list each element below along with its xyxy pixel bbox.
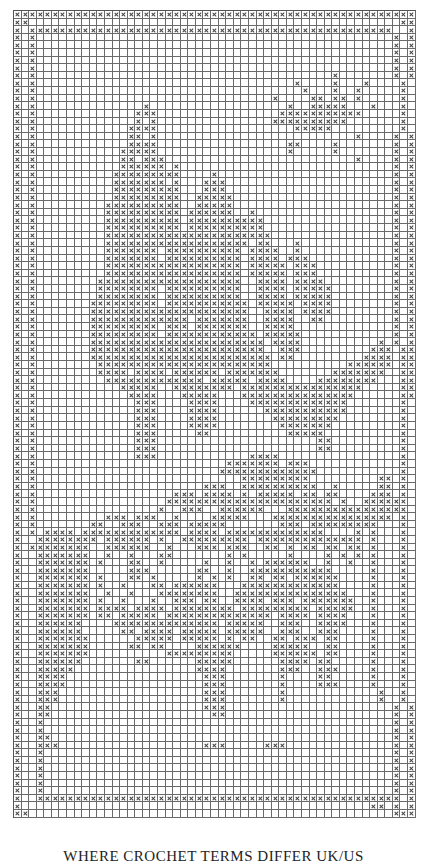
open-mesh-cell bbox=[67, 79, 75, 87]
open-mesh-cell bbox=[166, 696, 174, 704]
open-mesh-cell bbox=[340, 742, 348, 750]
filled-stitch-cell bbox=[234, 270, 242, 278]
filled-stitch-cell bbox=[287, 528, 295, 536]
open-mesh-cell bbox=[272, 521, 280, 529]
open-mesh-cell bbox=[44, 331, 52, 339]
open-mesh-cell bbox=[249, 125, 257, 133]
open-mesh-cell bbox=[37, 308, 45, 316]
open-mesh-cell bbox=[82, 437, 90, 445]
filled-stitch-cell bbox=[173, 353, 181, 361]
open-mesh-cell bbox=[97, 620, 105, 628]
filled-stitch-cell bbox=[44, 612, 52, 620]
open-mesh-cell bbox=[44, 57, 52, 65]
open-mesh-cell bbox=[44, 399, 52, 407]
open-mesh-cell bbox=[113, 719, 121, 727]
open-mesh-cell bbox=[158, 665, 166, 673]
open-mesh-cell bbox=[241, 285, 249, 293]
open-mesh-cell bbox=[59, 772, 67, 780]
filled-stitch-cell bbox=[135, 376, 143, 384]
filled-stitch-cell bbox=[135, 658, 143, 666]
open-mesh-cell bbox=[181, 148, 189, 156]
filled-stitch-cell bbox=[135, 605, 143, 613]
open-mesh-cell bbox=[325, 247, 333, 255]
filled-stitch-cell bbox=[150, 118, 158, 126]
filled-stitch-cell bbox=[105, 795, 113, 803]
filled-stitch-cell bbox=[355, 133, 363, 141]
open-mesh-cell bbox=[294, 323, 302, 331]
open-mesh-cell bbox=[287, 780, 295, 788]
open-mesh-cell bbox=[234, 703, 242, 711]
open-mesh-cell bbox=[249, 430, 257, 438]
filled-stitch-cell bbox=[181, 498, 189, 506]
open-mesh-cell bbox=[219, 620, 227, 628]
open-mesh-cell bbox=[310, 178, 318, 186]
open-mesh-cell bbox=[158, 696, 166, 704]
filled-stitch-cell bbox=[105, 361, 113, 369]
filled-stitch-cell bbox=[219, 270, 227, 278]
filled-stitch-cell bbox=[143, 407, 151, 415]
open-mesh-cell bbox=[219, 726, 227, 734]
open-mesh-cell bbox=[90, 79, 98, 87]
filled-stitch-cell bbox=[128, 643, 136, 651]
open-mesh-cell bbox=[363, 658, 371, 666]
open-mesh-cell bbox=[325, 186, 333, 194]
open-mesh-cell bbox=[181, 186, 189, 194]
open-mesh-cell bbox=[294, 102, 302, 110]
open-mesh-cell bbox=[310, 780, 318, 788]
filled-stitch-cell bbox=[264, 589, 272, 597]
open-mesh-cell bbox=[370, 475, 378, 483]
filled-stitch-cell bbox=[128, 133, 136, 141]
filled-stitch-cell bbox=[158, 605, 166, 613]
open-mesh-cell bbox=[241, 665, 249, 673]
filled-stitch-cell bbox=[234, 338, 242, 346]
filled-stitch-cell bbox=[408, 64, 416, 72]
filled-stitch-cell bbox=[203, 300, 211, 308]
filled-stitch-cell bbox=[340, 620, 348, 628]
filled-stitch-cell bbox=[325, 407, 333, 415]
open-mesh-cell bbox=[279, 148, 287, 156]
filled-stitch-cell bbox=[97, 528, 105, 536]
open-mesh-cell bbox=[211, 34, 219, 42]
filled-stitch-cell bbox=[37, 574, 45, 582]
open-mesh-cell bbox=[90, 566, 98, 574]
open-mesh-cell bbox=[196, 764, 204, 772]
open-mesh-cell bbox=[75, 133, 83, 141]
open-mesh-cell bbox=[310, 201, 318, 209]
open-mesh-cell bbox=[143, 802, 151, 810]
filled-stitch-cell bbox=[37, 559, 45, 567]
open-mesh-cell bbox=[22, 460, 30, 468]
open-mesh-cell bbox=[264, 627, 272, 635]
filled-stitch-cell bbox=[340, 521, 348, 529]
open-mesh-cell bbox=[59, 171, 67, 179]
filled-stitch-cell bbox=[105, 331, 113, 339]
open-mesh-cell bbox=[294, 156, 302, 164]
open-mesh-cell bbox=[272, 41, 280, 49]
filled-stitch-cell bbox=[264, 232, 272, 240]
filled-stitch-cell bbox=[302, 468, 310, 476]
open-mesh-cell bbox=[408, 498, 416, 506]
open-mesh-cell bbox=[363, 262, 371, 270]
open-mesh-cell bbox=[150, 102, 158, 110]
open-mesh-cell bbox=[158, 34, 166, 42]
open-mesh-cell bbox=[378, 665, 386, 673]
open-mesh-cell bbox=[67, 414, 75, 422]
open-mesh-cell bbox=[310, 719, 318, 727]
open-mesh-cell bbox=[279, 703, 287, 711]
filled-stitch-cell bbox=[158, 178, 166, 186]
filled-stitch-cell bbox=[105, 239, 113, 247]
open-mesh-cell bbox=[59, 216, 67, 224]
open-mesh-cell bbox=[128, 407, 136, 415]
open-mesh-cell bbox=[196, 787, 204, 795]
open-mesh-cell bbox=[203, 757, 211, 765]
open-mesh-cell bbox=[234, 399, 242, 407]
open-mesh-cell bbox=[59, 232, 67, 240]
filled-stitch-cell bbox=[325, 605, 333, 613]
open-mesh-cell bbox=[257, 696, 265, 704]
filled-stitch-cell bbox=[44, 658, 52, 666]
open-mesh-cell bbox=[279, 216, 287, 224]
open-mesh-cell bbox=[97, 224, 105, 232]
open-mesh-cell bbox=[287, 224, 295, 232]
filled-stitch-cell bbox=[196, 650, 204, 658]
open-mesh-cell bbox=[181, 163, 189, 171]
open-mesh-cell bbox=[249, 719, 257, 727]
